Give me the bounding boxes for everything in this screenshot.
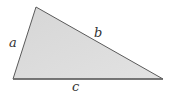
side-label-a: a bbox=[9, 35, 17, 50]
triangle-shape bbox=[13, 7, 163, 79]
triangle-diagram: a b c bbox=[0, 0, 170, 94]
side-label-b: b bbox=[94, 25, 102, 40]
side-label-c: c bbox=[72, 79, 80, 94]
